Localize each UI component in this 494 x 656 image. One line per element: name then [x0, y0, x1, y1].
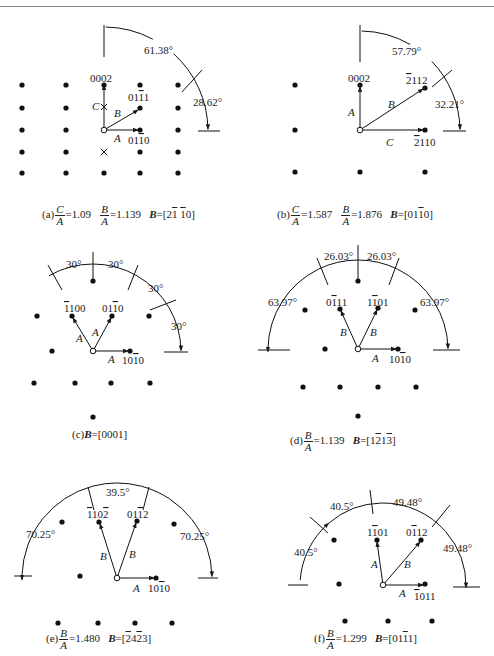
vector-label: A — [113, 132, 121, 144]
reference-line — [389, 258, 399, 285]
diffraction-spot — [55, 620, 60, 625]
diffraction-spot — [153, 575, 158, 580]
diffraction-spot — [355, 278, 360, 283]
spot-index-label: 0110 — [128, 134, 150, 146]
ratio-value: =1.09 — [66, 208, 91, 220]
diffraction-spot — [59, 519, 64, 524]
ratio-fraction: BA — [341, 204, 350, 227]
diffraction-spot — [422, 581, 427, 586]
spot-index-label: 1010 — [122, 354, 145, 366]
vector-label: B — [340, 326, 347, 338]
caption-label: (e) — [46, 632, 58, 644]
angle-arc — [362, 31, 410, 44]
ratio-fraction: BA — [59, 628, 68, 651]
panel-b: ABC00022112211057.79°32.21° — [292, 25, 466, 175]
angle-arc — [397, 269, 448, 348]
ratio-fraction: CA — [291, 204, 300, 227]
spot-index-label: 1102 — [87, 508, 109, 520]
spot-index-label: 2112 — [406, 74, 428, 86]
diffraction-spot — [412, 307, 417, 312]
zone-axis-value: =[1213] — [360, 434, 396, 446]
angle-label: 49.48° — [393, 496, 422, 508]
vector-label: B — [100, 550, 107, 562]
diffraction-spot — [385, 618, 390, 623]
angle-label: 40.5° — [294, 546, 318, 558]
angle-label: 30° — [66, 258, 81, 270]
angle-label: 30° — [171, 320, 186, 332]
diffraction-spot — [63, 127, 68, 132]
diffraction-spot — [171, 521, 176, 526]
angle-label: 30° — [108, 258, 123, 270]
diffraction-spot — [63, 170, 68, 175]
spot-index-label: 0111 — [326, 296, 347, 308]
vector-label: A — [75, 332, 83, 344]
panel-e: BBA11020112101039.5°70.25°70.25° — [14, 483, 218, 626]
transmitted-beam-spot — [90, 348, 96, 354]
diffraction-spot — [95, 620, 100, 625]
angle-arc — [106, 27, 153, 39]
angle-label: 70.25° — [26, 528, 55, 540]
angle-label: 61.38° — [144, 44, 173, 56]
diffraction-spot — [77, 573, 82, 578]
caption-label: (f) — [314, 632, 325, 644]
spot-index-label: 1101 — [367, 526, 389, 538]
zone-axis-symbol: B — [84, 428, 91, 440]
angle-arc — [446, 532, 466, 588]
ratio-value: =1.587 — [301, 208, 332, 220]
zone-axis-symbol: B — [108, 632, 115, 644]
diffraction-spot — [63, 105, 68, 110]
spot-index-label: 0111 — [128, 91, 149, 103]
angle-label: 40.5° — [330, 500, 354, 512]
transmitted-beam-spot — [357, 127, 363, 133]
spot-index-label: 1100 — [64, 302, 86, 314]
zone-axis-value: =[0111] — [382, 632, 417, 644]
diffraction-spot — [96, 519, 101, 524]
diffraction-spot — [292, 169, 297, 174]
spot-index-label: 0002 — [90, 72, 112, 84]
diffraction-spot — [137, 170, 142, 175]
diffraction-spot — [300, 384, 305, 389]
caption-b: (b)CA=1.587 BA=1.876 B=[0110] — [277, 204, 433, 227]
diffraction-spot — [292, 127, 297, 132]
diffraction-spot — [19, 105, 24, 110]
spot-index-label: 0110 — [102, 302, 124, 314]
diffraction-spot — [137, 82, 142, 87]
diffraction-spot — [127, 348, 132, 353]
angle-label: 28.62° — [193, 96, 222, 108]
spot-index-label: 1010 — [148, 582, 171, 594]
angle-label: 63.97° — [268, 296, 297, 308]
transmitted-beam-spot — [380, 582, 386, 588]
diffraction-spot — [137, 127, 142, 132]
vector-label: A — [107, 353, 115, 365]
vector-label: A — [370, 558, 378, 570]
reference-line — [370, 490, 373, 514]
spot-index-label: 1101 — [367, 296, 389, 308]
diffraction-spot — [422, 85, 427, 90]
caption-label: (d) — [290, 434, 303, 446]
angle-label: 26.03° — [324, 250, 353, 262]
diffraction-spot — [422, 127, 427, 132]
diffraction-spot — [137, 105, 142, 110]
zone-axis-value: =[2423] — [116, 632, 152, 644]
diffraction-spot — [395, 346, 400, 351]
vector-label: B — [129, 548, 136, 560]
diffraction-spot — [19, 82, 24, 87]
diffraction-spot — [108, 380, 113, 385]
ratio-fraction: CA — [55, 204, 64, 227]
diffraction-spot — [132, 620, 137, 625]
diffraction-spot — [69, 313, 74, 318]
diffraction-spot — [337, 384, 342, 389]
caption-label: (b) — [277, 208, 290, 220]
spot-index-label: 1010 — [389, 353, 412, 365]
angle-label: 63.97° — [420, 296, 449, 308]
diffraction-spot — [336, 581, 341, 586]
diffraction-spot — [292, 82, 297, 87]
diffraction-patterns-figure: CBA00020111011061.38°28.62°ABC0002211221… — [0, 0, 494, 656]
diffraction-spot — [302, 307, 307, 312]
angle-label: 70.25° — [180, 530, 209, 542]
diffraction-spot — [19, 149, 24, 154]
angle-label: 49.48° — [443, 542, 472, 554]
diffraction-spot — [357, 169, 362, 174]
reference-line — [88, 487, 94, 510]
angle-arc — [268, 269, 319, 348]
